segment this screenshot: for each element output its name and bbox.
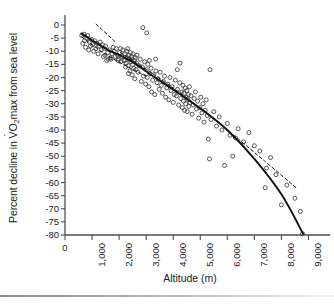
y-tick-label: -30 — [31, 99, 59, 109]
data-point — [146, 62, 150, 66]
data-point — [274, 173, 278, 177]
figure-container: Percent decline in VO2max from sea level… — [0, 0, 334, 305]
fit-line-solid-curve — [81, 33, 303, 233]
data-point — [269, 156, 273, 160]
data-point — [155, 81, 159, 85]
y-axis-title-o: O — [7, 123, 19, 131]
data-point — [247, 131, 251, 135]
data-point — [173, 78, 177, 82]
data-point — [207, 157, 211, 161]
data-point — [231, 154, 235, 158]
data-point — [265, 166, 269, 170]
x-tick-label: 4,000 — [178, 243, 188, 283]
data-point — [187, 104, 191, 108]
data-point — [285, 183, 289, 187]
y-tick-label: -55 — [31, 164, 59, 174]
y-tick-label: -20 — [31, 73, 59, 83]
x-tick-label: 1,000 — [97, 243, 107, 283]
data-point — [151, 78, 155, 82]
scatter-points — [80, 26, 305, 236]
data-point — [145, 31, 149, 35]
bottom-divider — [0, 295, 334, 297]
data-point — [206, 137, 210, 141]
data-point — [190, 112, 194, 116]
data-point — [220, 128, 224, 132]
data-point — [225, 121, 229, 125]
data-point — [147, 85, 151, 89]
data-point — [187, 85, 191, 89]
y-axis-title-subscript: 2 — [12, 119, 21, 123]
data-point — [175, 68, 179, 72]
data-point — [171, 100, 175, 104]
x-tick-label: 7,000 — [259, 243, 269, 283]
data-point — [87, 48, 91, 52]
data-point — [293, 196, 297, 200]
data-point — [197, 116, 201, 120]
data-point — [167, 98, 171, 102]
data-point — [263, 186, 267, 190]
data-point — [96, 52, 100, 56]
y-tick-label: -35 — [31, 112, 59, 122]
y-axis-title: Percent decline in VO2max from sea level — [4, 8, 22, 248]
data-point — [217, 115, 221, 119]
data-point — [178, 61, 182, 65]
y-tick-label: -45 — [31, 138, 59, 148]
data-point — [149, 66, 153, 70]
data-point — [168, 76, 172, 80]
y-tick-label: -75 — [31, 217, 59, 227]
data-point — [193, 90, 197, 94]
data-point — [208, 68, 212, 72]
x-tick-label: 5,000 — [205, 243, 215, 283]
data-point — [157, 87, 161, 91]
data-point — [154, 69, 158, 73]
y-tick-label: -60 — [31, 178, 59, 188]
data-point — [202, 120, 206, 124]
x-tick-label: 3,000 — [151, 243, 161, 283]
data-point — [92, 49, 96, 53]
y-tick-label: -5 — [31, 33, 59, 43]
data-point — [163, 74, 167, 78]
y-axis-title-prefix: Percent decline in — [7, 138, 19, 222]
data-point — [133, 77, 137, 81]
data-point — [196, 99, 200, 103]
data-point — [138, 57, 142, 61]
data-point — [252, 144, 256, 148]
data-point — [141, 26, 145, 30]
x-tick-label: 8,000 — [286, 243, 296, 283]
y-tick-label: -80 — [31, 230, 59, 240]
data-point — [199, 95, 203, 99]
x-tick-label: 0 — [57, 243, 73, 253]
data-point — [214, 124, 218, 128]
data-point — [204, 98, 208, 102]
data-point — [201, 102, 205, 106]
y-tick-label: 0 — [31, 20, 59, 30]
data-point — [180, 106, 184, 110]
y-tick-label: -65 — [31, 191, 59, 201]
data-point — [298, 209, 302, 213]
data-point — [212, 110, 216, 114]
data-point — [177, 103, 181, 107]
data-point — [147, 58, 151, 62]
data-point — [139, 79, 143, 83]
y-tick-label: -10 — [31, 46, 59, 56]
data-point — [258, 149, 262, 153]
data-point — [158, 70, 162, 74]
data-point — [154, 57, 158, 61]
x-tick-label: 9,000 — [313, 243, 323, 283]
data-point — [236, 127, 240, 131]
y-tick-label: -15 — [31, 59, 59, 69]
y-tick-label: -25 — [31, 86, 59, 96]
x-tick-label: 6,000 — [232, 243, 242, 283]
y-tick-label: -40 — [31, 125, 59, 135]
v-dot-symbol: V — [4, 132, 22, 139]
y-tick-label: -70 — [31, 204, 59, 214]
data-point — [160, 91, 164, 95]
x-tick-label: 2,000 — [124, 243, 134, 283]
data-point — [159, 83, 163, 87]
data-point — [181, 99, 185, 103]
data-point — [153, 93, 157, 97]
y-axis-title-suffix: max from sea level — [7, 33, 19, 119]
data-point — [223, 163, 227, 167]
data-point — [279, 203, 283, 207]
data-point — [181, 83, 185, 87]
